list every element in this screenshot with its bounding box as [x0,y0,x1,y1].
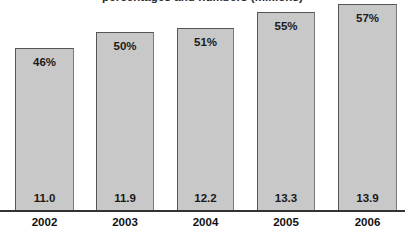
bar-value-label-2006: 13.9 [339,192,396,204]
bar-percent-label-2004: 51% [178,36,233,48]
bar-group-2004: 51% 12.2 [177,28,234,210]
bar-value-label-2003: 11.9 [97,192,153,204]
x-axis-line [0,210,405,212]
category-label-2004: 2004 [177,216,234,228]
bar-2002[interactable]: 46% 11.0 [15,48,74,210]
plot-area: 46% 11.0 50% 11.9 51% 12.2 55% 13.3 [0,0,405,210]
bar-group-2002: 46% 11.0 [15,48,74,210]
bar-value-label-2004: 12.2 [178,192,233,204]
category-label-2003: 2003 [96,216,154,228]
bar-value-label-2002: 11.0 [16,192,73,204]
bar-percent-label-2005: 55% [258,20,314,32]
bar-percent-label-2006: 57% [339,12,396,24]
category-label-2006: 2006 [338,216,397,228]
bar-2003[interactable]: 50% 11.9 [96,32,154,210]
bar-value-label-2005: 13.3 [258,192,314,204]
bar-2005[interactable]: 55% 13.3 [257,12,315,210]
category-label-2005: 2005 [257,216,315,228]
bar-2004[interactable]: 51% 12.2 [177,28,234,210]
bar-chart: percentages and numbers (millions) 46% 1… [0,0,405,234]
bar-2006[interactable]: 57% 13.9 [338,4,397,210]
bar-group-2006: 57% 13.9 [338,4,397,210]
bar-group-2003: 50% 11.9 [96,32,154,210]
bar-percent-label-2002: 46% [16,56,73,68]
x-axis-category-labels: 2002 2003 2004 2005 2006 [0,213,405,234]
bar-group-2005: 55% 13.3 [257,12,315,210]
bar-percent-label-2003: 50% [97,40,153,52]
category-label-2002: 2002 [15,216,74,228]
